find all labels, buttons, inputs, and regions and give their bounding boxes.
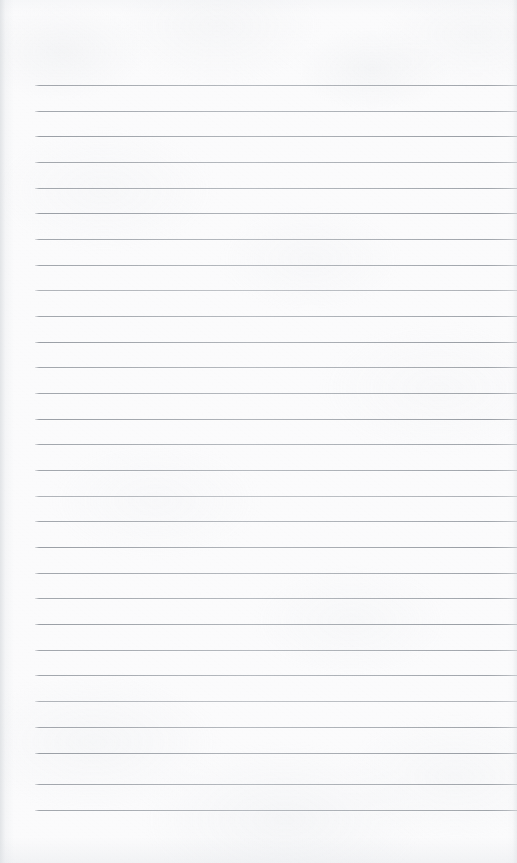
scanned-page	[0, 0, 517, 863]
writing-area[interactable]	[35, 59, 517, 810]
